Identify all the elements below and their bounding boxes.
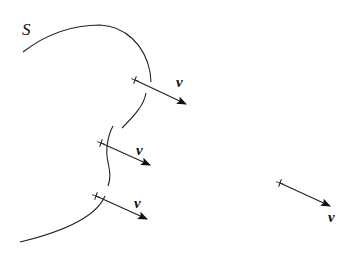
surface-s-curve	[20, 25, 151, 242]
vector-label-p1: v	[176, 74, 183, 90]
arrow-p4	[280, 183, 330, 206]
surface-label: S	[22, 20, 31, 39]
velocity-arrows	[96, 80, 330, 219]
vector-label-p4: v	[328, 209, 335, 225]
point-markers	[91, 75, 285, 201]
vector-label-p3: v	[134, 195, 141, 211]
vector-label-p2: v	[136, 142, 143, 158]
diagram-canvas: S v v v v	[0, 0, 354, 255]
diagram-svg: S v v v v	[0, 0, 354, 255]
